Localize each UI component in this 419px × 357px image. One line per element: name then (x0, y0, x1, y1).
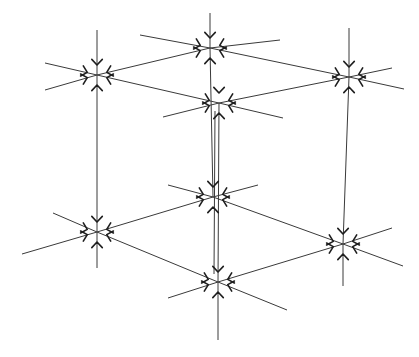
barb-icon (214, 87, 225, 93)
extension-line (45, 75, 97, 90)
extension-line (349, 77, 404, 89)
extension-line (168, 282, 218, 298)
barb-icon (344, 87, 355, 93)
extension-line (22, 232, 97, 254)
extension-line (53, 213, 97, 232)
cubic-lattice-diagram (0, 0, 419, 357)
lattice-edges (97, 48, 349, 282)
edge-top-back-top-right (210, 48, 349, 77)
edge-top-right-top-front (219, 77, 349, 103)
extension-line (343, 244, 403, 266)
extension-line (349, 68, 392, 77)
edge-bottom-back-bottom-left (97, 197, 213, 232)
edge-top-front-bottom-front (218, 103, 219, 282)
extension-line (45, 63, 97, 75)
edge-bottom-back-bottom-right (213, 197, 343, 244)
edge-bottom-left-bottom-front (97, 232, 218, 282)
lattice-nodes (81, 32, 366, 297)
extension-line (163, 103, 219, 117)
edge-top-left-top-front (97, 75, 219, 103)
edge-front-double (214, 111, 215, 274)
edge-top-back-bottom-back (210, 48, 213, 197)
barb-icon (208, 207, 219, 213)
edge-bottom-right-bottom-front (218, 244, 343, 282)
extension-line (343, 228, 392, 244)
extension-line (213, 185, 258, 197)
extension-line (168, 185, 213, 197)
edge-top-right-bottom-right (343, 77, 349, 244)
edge-top-back-top-left (97, 48, 210, 75)
